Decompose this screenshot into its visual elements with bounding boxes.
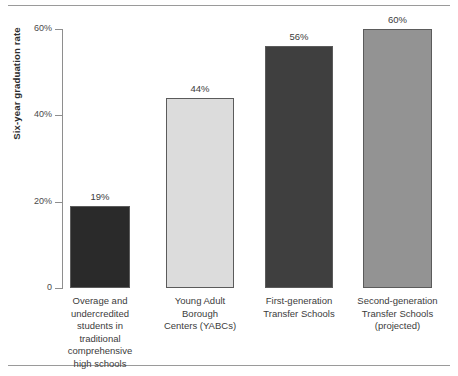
bar-value-label: 44% — [166, 83, 234, 94]
category-label-line: Second-generation — [341, 295, 454, 308]
category-label-line: comprehensive — [48, 345, 152, 358]
category-label-line: First-generation — [243, 295, 355, 308]
category-label-line: Overage and — [48, 295, 152, 308]
bar[interactable] — [265, 46, 333, 288]
bar[interactable] — [70, 206, 130, 288]
y-axis-title: Six-year graduation rate — [11, 0, 22, 184]
y-tick-mark — [55, 288, 62, 289]
bar-value-label: 19% — [70, 191, 130, 202]
y-tick-mark — [55, 202, 62, 203]
category-label-line: high schools — [48, 358, 152, 371]
bar[interactable] — [363, 29, 432, 288]
y-tick-label: 0 — [47, 282, 52, 292]
bar-value-label: 60% — [363, 14, 432, 25]
plot-area: 020%40%60% 19%Overage andundercreditedst… — [62, 29, 447, 288]
bar-group: 60%Second-generationTransfer Schools(pro… — [363, 29, 432, 288]
y-tick-label: 60% — [34, 23, 52, 33]
y-tick-label: 20% — [34, 196, 52, 206]
category-label-line: Transfer Schools — [243, 308, 355, 321]
y-tick-mark — [55, 29, 62, 30]
bar-value-label: 56% — [265, 31, 333, 42]
y-tick-mark — [55, 115, 62, 116]
category-label: Second-generationTransfer Schools(projec… — [341, 295, 454, 333]
category-label-line: traditional — [48, 333, 152, 346]
bar-chart-figure: Six-year graduation rate 020%40%60% 19%O… — [0, 0, 458, 376]
category-label: First-generationTransfer Schools — [243, 295, 355, 320]
category-label-line: Transfer Schools — [341, 308, 454, 321]
y-tick-label: 40% — [34, 109, 52, 119]
top-divider-rule — [8, 5, 450, 6]
category-label-line: undercredited — [48, 308, 152, 321]
category-label-line: Borough — [144, 308, 256, 321]
category-label: Young AdultBoroughCenters (YABCs) — [144, 295, 256, 333]
bar-group: 56%First-generationTransfer Schools — [265, 29, 333, 288]
category-label-line: Young Adult — [144, 295, 256, 308]
category-label-line: students in — [48, 320, 152, 333]
category-label-line: (projected) — [341, 320, 454, 333]
bar-group: 19%Overage andundercreditedstudents intr… — [70, 29, 130, 288]
category-label: Overage andundercreditedstudents intradi… — [48, 295, 152, 371]
bar-group: 44%Young AdultBoroughCenters (YABCs) — [166, 29, 234, 288]
category-label-line: Centers (YABCs) — [144, 320, 256, 333]
bar[interactable] — [166, 98, 234, 288]
